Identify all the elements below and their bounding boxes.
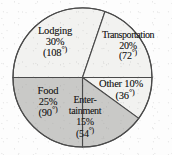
- pie-chart-figure: Lodging 30% (108°) Transportation 20% (7…: [0, 0, 172, 155]
- pie-label-lodging: Lodging 30% (108°): [24, 25, 86, 58]
- pie-label-transportation-degrees-value: (72: [119, 50, 132, 61]
- pie-label-transportation-degrees-suffix: °): [132, 48, 137, 57]
- pie-label-lodging-degrees-value: (108: [43, 47, 61, 58]
- pie-label-entertainment-degrees: (54°): [58, 128, 112, 139]
- pie-label-transportation-name: Transportation: [88, 30, 168, 41]
- pie-label-entertainment-degrees-suffix: °): [89, 125, 94, 134]
- pie-label-lodging-percent: 30%: [24, 36, 86, 47]
- pie-label-food-degrees-value: (90: [39, 107, 52, 118]
- pie-label-entertainment: Enter- tainment 15% (54°): [58, 94, 112, 139]
- pie-label-lodging-degrees-suffix: °): [61, 45, 67, 54]
- pie-label-lodging-name: Lodging: [24, 25, 86, 36]
- pie-label-lodging-degrees: (108°): [24, 47, 86, 58]
- pie-label-entertainment-percent: 15%: [58, 116, 112, 127]
- pie-label-entertainment-name-line2: tainment: [58, 105, 112, 116]
- pie-label-entertainment-degrees-value: (54: [76, 128, 89, 139]
- pie-label-entertainment-name-line1: Enter-: [58, 94, 112, 105]
- pie-label-other-degrees-value: (36: [116, 90, 129, 101]
- pie-label-other-degrees-suffix: °): [129, 88, 135, 97]
- pie-label-transportation-degrees: (72°): [88, 51, 168, 62]
- pie-label-transportation: Transportation 20% (72°): [88, 30, 168, 62]
- pie-label-food-degrees-suffix: °): [52, 105, 58, 114]
